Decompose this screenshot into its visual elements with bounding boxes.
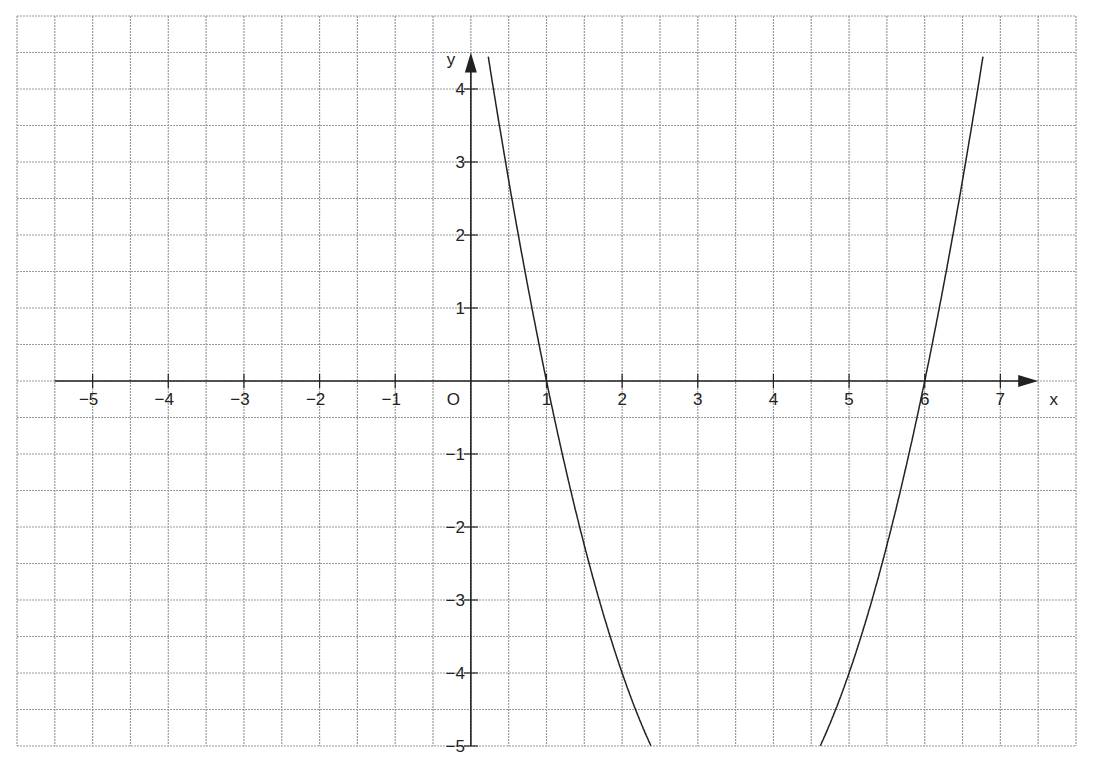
x-tick-label: 7 (996, 390, 1005, 409)
x-tick-label: −5 (79, 390, 98, 409)
x-tick-label: −3 (230, 390, 249, 409)
y-tick-label: −2 (445, 518, 464, 537)
x-tick-label: −4 (155, 390, 174, 409)
y-tick-label: −4 (445, 664, 464, 683)
y-tick-label: 3 (455, 153, 464, 172)
x-axis-label: x (1050, 390, 1059, 409)
x-tick-label: 4 (769, 390, 778, 409)
x-tick-label: −1 (382, 390, 401, 409)
origin-label: O (447, 390, 460, 409)
x-tick-label: 2 (617, 390, 626, 409)
y-tick-label: 1 (455, 299, 464, 318)
y-tick-label: −5 (445, 737, 464, 756)
x-tick-label: 5 (844, 390, 853, 409)
y-tick-label: 4 (455, 80, 464, 99)
y-tick-label: −3 (445, 591, 464, 610)
y-tick-label: 2 (455, 226, 464, 245)
y-axis-label: y (447, 50, 456, 69)
y-tick-label: −1 (445, 445, 464, 464)
x-axis-arrow-icon (1018, 375, 1038, 387)
x-tick-label: −2 (306, 390, 325, 409)
x-tick-label: 3 (693, 390, 702, 409)
function-graph: −5−4−3−2−112345674321−1−2−3−4−5 x y O (0, 0, 1095, 769)
y-axis-arrow-icon (465, 53, 477, 73)
